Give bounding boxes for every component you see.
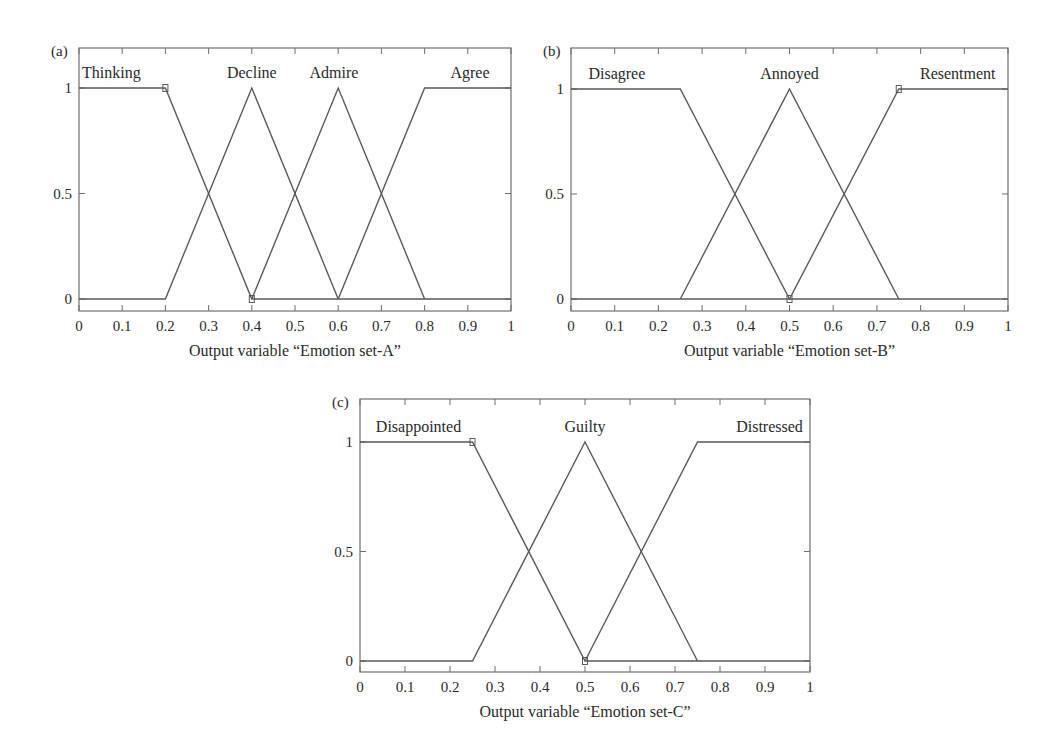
chart-panel-a: 00.10.20.30.40.50.60.70.80.9100.51Thinki… xyxy=(51,43,515,360)
membership-function-admire xyxy=(252,88,425,299)
membership-function-annoyed xyxy=(680,89,899,299)
x-tick-label: 0.5 xyxy=(576,679,595,695)
y-tick-label: 0 xyxy=(557,291,565,307)
x-tick-label: 0.9 xyxy=(458,318,477,334)
x-tick-label: 0 xyxy=(356,679,364,695)
series-label-agree: Agree xyxy=(450,64,489,82)
x-tick-label: 0.9 xyxy=(955,318,974,334)
panel-label: (a) xyxy=(51,43,68,60)
y-tick-label: 0.5 xyxy=(53,186,72,202)
x-tick-label: 0.3 xyxy=(486,679,505,695)
membership-function-guilty xyxy=(360,442,698,661)
x-tick-label: 0.7 xyxy=(666,679,685,695)
y-tick-label: 1 xyxy=(65,80,73,96)
x-axis-label: Output variable “Emotion set-B” xyxy=(684,342,895,360)
panel-label: (b) xyxy=(543,43,561,60)
x-tick-label: 1 xyxy=(806,679,814,695)
x-tick-label: 0.1 xyxy=(113,318,132,334)
series-label-admire: Admire xyxy=(309,64,358,81)
x-tick-label: 0.4 xyxy=(242,318,261,334)
x-tick-label: 0.2 xyxy=(156,318,175,334)
series-label-resentment: Resentment xyxy=(920,65,996,82)
series-label-decline: Decline xyxy=(227,64,277,81)
x-tick-label: 0.5 xyxy=(286,318,305,334)
x-tick-label: 0 xyxy=(567,318,575,334)
membership-function-resentment xyxy=(571,89,1008,299)
plot-frame xyxy=(571,48,1008,311)
series-label-annoyed: Annoyed xyxy=(760,65,819,83)
x-tick-label: 0.8 xyxy=(911,318,930,334)
fuzzy-membership-figure: 00.10.20.30.40.50.60.70.80.9100.51Thinki… xyxy=(0,0,1052,753)
y-tick-label: 0.5 xyxy=(545,186,564,202)
x-tick-label: 0.7 xyxy=(868,318,887,334)
x-tick-label: 0.2 xyxy=(441,679,460,695)
x-tick-label: 0.4 xyxy=(531,679,550,695)
y-tick-label: 0 xyxy=(346,653,354,669)
x-axis-label: Output variable “Emotion set-C” xyxy=(479,703,690,721)
x-axis-label: Output variable “Emotion set-A” xyxy=(189,342,401,360)
x-tick-label: 0.8 xyxy=(711,679,730,695)
x-tick-label: 0.3 xyxy=(199,318,218,334)
x-tick-label: 0.6 xyxy=(621,679,640,695)
membership-function-decline xyxy=(79,88,338,299)
y-tick-label: 1 xyxy=(346,434,354,450)
chart-panel-b: 00.10.20.30.40.50.60.70.80.9100.51Disagr… xyxy=(543,43,1012,360)
x-tick-label: 0.6 xyxy=(329,318,348,334)
x-tick-label: 0.1 xyxy=(605,318,624,334)
x-tick-label: 0.7 xyxy=(372,318,391,334)
membership-function-distressed xyxy=(585,442,810,661)
membership-function-disappointed xyxy=(360,442,810,661)
chart-panel-c: 00.10.20.30.40.50.60.70.80.9100.51Disapp… xyxy=(332,394,814,721)
series-label-distressed: Distressed xyxy=(736,418,803,435)
series-label-guilty: Guilty xyxy=(565,418,606,436)
x-tick-label: 0.2 xyxy=(649,318,668,334)
membership-function-disagree xyxy=(571,89,1008,299)
x-tick-label: 0 xyxy=(75,318,83,334)
y-tick-label: 1 xyxy=(557,81,565,97)
y-tick-label: 0 xyxy=(65,291,73,307)
series-label-disagree: Disagree xyxy=(588,65,645,83)
x-tick-label: 0.9 xyxy=(756,679,775,695)
x-tick-label: 1 xyxy=(1004,318,1012,334)
series-label-thinking: Thinking xyxy=(82,64,141,82)
x-tick-label: 0.8 xyxy=(415,318,434,334)
x-tick-label: 1 xyxy=(507,318,515,334)
x-tick-label: 0.1 xyxy=(396,679,415,695)
x-tick-label: 0.3 xyxy=(693,318,712,334)
series-label-disappointed: Disappointed xyxy=(376,418,461,436)
plot-frame xyxy=(360,399,810,672)
x-tick-label: 0.5 xyxy=(780,318,799,334)
y-tick-label: 0.5 xyxy=(334,544,353,560)
panel-label: (c) xyxy=(332,394,349,411)
x-tick-label: 0.4 xyxy=(736,318,755,334)
x-tick-label: 0.6 xyxy=(824,318,843,334)
membership-function-agree xyxy=(338,88,511,299)
